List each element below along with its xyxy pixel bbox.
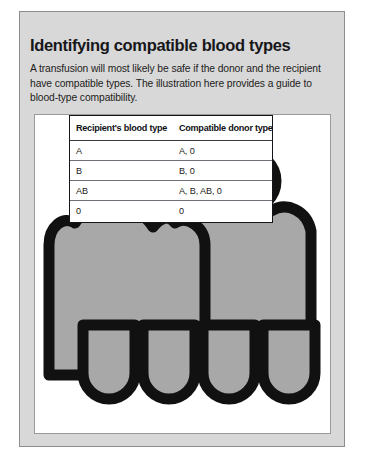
cell-recipient: A bbox=[70, 141, 173, 161]
cell-donor: A, B, AB, 0 bbox=[173, 181, 272, 201]
page-title: Identifying compatible blood types bbox=[30, 36, 330, 54]
blood-type-compatibility-table: Recipient's blood type Compatible donor … bbox=[69, 115, 273, 223]
leg-3 bbox=[203, 325, 255, 399]
cell-donor: B, 0 bbox=[173, 161, 272, 181]
table-row: AB A, B, AB, 0 bbox=[70, 181, 272, 201]
column-header-donor: Compatible donor type bbox=[173, 116, 272, 141]
cell-recipient: AB bbox=[70, 181, 173, 201]
leg-1 bbox=[83, 325, 135, 399]
page-root: Identifying compatible blood types A tra… bbox=[0, 0, 366, 458]
cell-recipient: B bbox=[70, 161, 173, 181]
column-header-recipient: Recipient's blood type bbox=[70, 116, 173, 141]
cell-donor: A, 0 bbox=[173, 141, 272, 161]
leg-4 bbox=[263, 325, 315, 399]
table-row: A A, 0 bbox=[70, 141, 272, 161]
table-row: B B, 0 bbox=[70, 161, 272, 181]
cell-recipient: 0 bbox=[70, 201, 173, 222]
info-card: Identifying compatible blood types A tra… bbox=[19, 11, 345, 447]
table-row: 0 0 bbox=[70, 201, 272, 222]
intro-paragraph: A transfusion will most likely be safe i… bbox=[30, 62, 330, 106]
leg-2 bbox=[143, 325, 195, 399]
table-header-row: Recipient's blood type Compatible donor … bbox=[70, 116, 272, 141]
cell-donor: 0 bbox=[173, 201, 272, 222]
